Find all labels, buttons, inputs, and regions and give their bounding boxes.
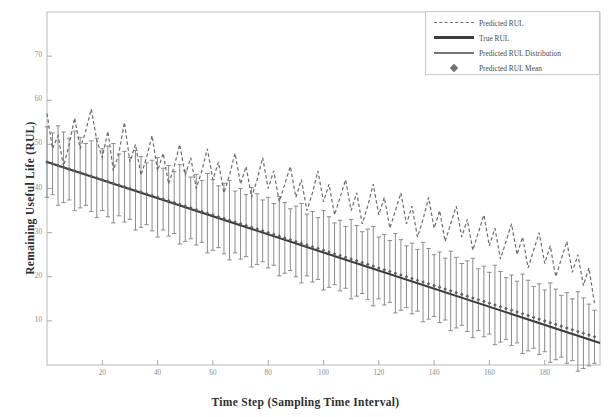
rul-prognostics-chart: 10203040506070 20406080100120140160180 R… [0,0,611,417]
x-tick-label: 100 [311,369,337,377]
x-tick-label: 20 [89,369,115,377]
legend-item-true-rul: True RUL [432,31,509,45]
y-axis-title: Remaining Useful Life (RUL) [24,78,36,318]
predicted-rul-series [47,109,594,303]
x-tick-label: 40 [145,369,171,377]
dashed-line-icon [432,17,476,29]
x-tick-label: 60 [200,369,226,377]
x-axis-title: Time Step (Sampling Time Interval) [0,396,611,408]
chart-legend: Predicted RUL True RUL Predicted RUL Dis… [425,11,600,75]
x-tick-label: 80 [255,369,281,377]
x-tick-label: 180 [532,369,558,377]
solid-line-icon [432,32,476,44]
diamond-marker-icon [432,62,476,74]
legend-label: True RUL [479,34,509,43]
x-tick-label: 160 [476,369,502,377]
legend-label: Predicted RUL [479,19,524,28]
predicted-rul-mean-series [45,160,596,338]
x-tick-label: 140 [421,369,447,377]
legend-label: Predicted RUL Mean [479,64,542,73]
solid-line-icon [432,47,476,59]
legend-item-predicted-rul: Predicted RUL [432,16,524,30]
y-tick-label: 70 [20,51,42,59]
predicted-rul-distribution-series [45,126,597,371]
legend-item-predicted-rul-distribution: Predicted RUL Distribution [432,46,561,60]
legend-item-predicted-rul-mean: Predicted RUL Mean [432,61,542,75]
legend-label: Predicted RUL Distribution [479,49,561,58]
x-tick-label: 120 [366,369,392,377]
